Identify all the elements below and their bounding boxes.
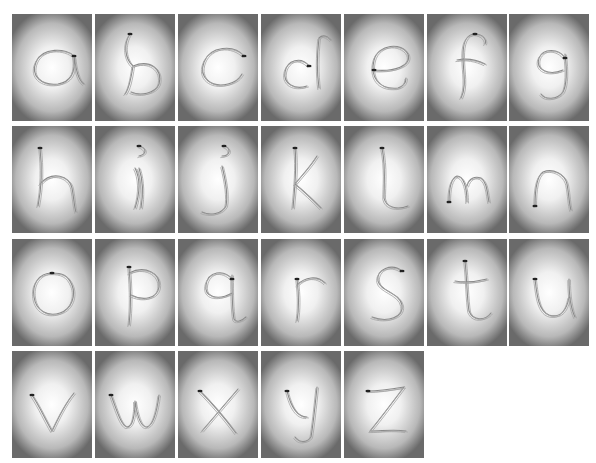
letter-photo-t: t <box>427 239 507 346</box>
seedling-strokes-icon <box>261 239 341 346</box>
seedling-strokes-icon <box>261 14 341 121</box>
letter-photo-k: k <box>261 126 341 233</box>
letter-photo-w: w <box>95 351 175 458</box>
letter-photo-z: z <box>344 351 424 458</box>
letter-photo-b: b <box>95 14 175 121</box>
seedling-strokes-icon <box>509 126 589 233</box>
seedling-strokes-icon <box>12 239 92 346</box>
seedling-strokes-icon <box>95 14 175 121</box>
seedling-strokes-icon <box>509 14 589 121</box>
letter-photo-q: q <box>178 239 258 346</box>
seedling-strokes-icon <box>12 351 92 458</box>
seedling-strokes-icon <box>95 351 175 458</box>
seedling-strokes-icon <box>12 14 92 121</box>
letter-photo-f: f <box>427 14 507 121</box>
seedling-strokes-icon <box>344 126 424 233</box>
letter-photo-d: d <box>261 14 341 121</box>
letter-photo-s: s <box>344 239 424 346</box>
letter-photo-c: c <box>178 14 258 121</box>
seedling-strokes-icon <box>178 14 258 121</box>
letter-photo-u: u <box>509 239 589 346</box>
letter-photo-a: a <box>12 14 92 121</box>
seedling-strokes-icon <box>344 239 424 346</box>
letter-photo-m: m <box>427 126 507 233</box>
seedling-strokes-icon <box>427 14 507 121</box>
seedling-strokes-icon <box>178 351 258 458</box>
seedling-strokes-icon <box>12 126 92 233</box>
letter-photo-l: l <box>344 126 424 233</box>
seedling-strokes-icon <box>261 126 341 233</box>
seedling-strokes-icon <box>344 14 424 121</box>
letter-photo-o: o <box>12 239 92 346</box>
letter-photo-n: n <box>509 126 589 233</box>
letter-photo-r: r <box>261 239 341 346</box>
letter-photo-h: h <box>12 126 92 233</box>
letter-photo-v: v <box>12 351 92 458</box>
seedling-strokes-icon <box>95 239 175 346</box>
seedling-strokes-icon <box>427 126 507 233</box>
letter-photo-x: x <box>178 351 258 458</box>
seedling-strokes-icon <box>261 351 341 458</box>
seedling-strokes-icon <box>178 126 258 233</box>
letter-photo-y: y <box>261 351 341 458</box>
letter-photo-i: i <box>95 126 175 233</box>
letter-photo-g: g <box>509 14 589 121</box>
seedling-strokes-icon <box>178 239 258 346</box>
letter-photo-e: e <box>344 14 424 121</box>
seedling-strokes-icon <box>427 239 507 346</box>
seedling-strokes-icon <box>344 351 424 458</box>
seedling-strokes-icon <box>509 239 589 346</box>
seedling-strokes-icon <box>95 126 175 233</box>
letter-photo-p: p <box>95 239 175 346</box>
letter-photo-j: j <box>178 126 258 233</box>
